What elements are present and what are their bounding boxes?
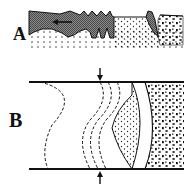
panel-b: [29, 68, 184, 184]
diagram-figure: [0, 0, 195, 191]
arrow-down-icon: [97, 68, 103, 81]
coarse-dotted-region: [145, 82, 184, 169]
fine-dotted-lens: [112, 82, 140, 169]
coarse-dotted-block: [158, 15, 183, 45]
panel-a: [29, 8, 183, 50]
dashed-contours: [40, 82, 120, 169]
arrow-up-icon: [97, 171, 103, 184]
